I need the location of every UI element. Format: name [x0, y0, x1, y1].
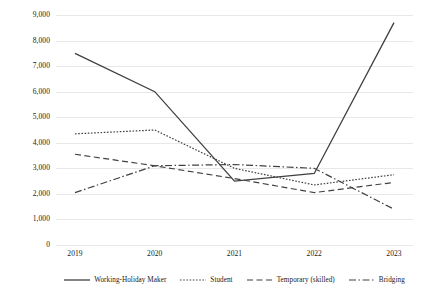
series-lines	[56, 15, 413, 245]
x-axis-tick-label: 2019	[67, 249, 82, 258]
y-axis-tick-label: 3,000	[6, 164, 50, 172]
gridline	[56, 245, 413, 246]
line-chart: 01,0002,0003,0004,0005,0006,0007,0008,00…	[0, 0, 423, 295]
legend-item[interactable]: Student	[180, 276, 232, 285]
series-line	[75, 154, 394, 192]
x-axis-tick-label: 2021	[227, 249, 242, 258]
legend-swatch-icon	[247, 276, 273, 284]
series-line	[75, 165, 394, 210]
legend-item-label: Working-Holiday Maker	[94, 276, 166, 285]
y-axis-tick-label: 5,000	[6, 113, 50, 121]
x-axis-tick-label: 2023	[386, 249, 401, 258]
y-axis-tick-label: 7,000	[6, 62, 50, 70]
x-axis-tick-label: 2020	[147, 249, 162, 258]
y-axis-tick-label: 2,000	[6, 190, 50, 198]
legend-swatch-icon	[180, 276, 206, 284]
legend-item[interactable]: Working-Holiday Maker	[64, 276, 166, 285]
y-axis-tick-label: 1,000	[6, 215, 50, 223]
legend-item-label: Temporary (skilled)	[277, 276, 335, 285]
y-axis-tick-label: 6,000	[6, 88, 50, 96]
legend-item-label: Student	[210, 276, 232, 285]
y-axis-tick-label: 8,000	[6, 37, 50, 45]
y-axis-tick-label: 0	[6, 241, 50, 249]
chart-legend: Working-Holiday MakerStudentTemporary (s…	[56, 272, 413, 288]
y-axis-tick-label: 4,000	[6, 139, 50, 147]
legend-item-label: Bridging	[379, 276, 405, 285]
series-line	[75, 23, 394, 181]
y-axis-labels: 01,0002,0003,0004,0005,0006,0007,0008,00…	[0, 15, 50, 245]
x-axis-tick-label: 2022	[307, 249, 322, 258]
legend-swatch-icon	[349, 276, 375, 284]
legend-item[interactable]: Bridging	[349, 276, 405, 285]
legend-item[interactable]: Temporary (skilled)	[247, 276, 335, 285]
x-axis-labels: 20192020202120222023	[56, 249, 413, 261]
y-axis-tick-label: 9,000	[6, 11, 50, 19]
legend-swatch-icon	[64, 276, 90, 284]
plot-area	[56, 15, 413, 245]
